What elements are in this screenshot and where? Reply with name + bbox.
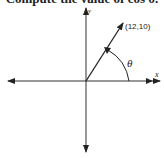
y-axis-label: y xyxy=(87,7,92,15)
coordinate-diagram: x y θ (12,10) xyxy=(0,0,164,158)
terminal-ray xyxy=(86,23,123,81)
angle-label: θ xyxy=(127,57,133,69)
x-axis-label: x xyxy=(154,70,159,79)
x-axis-arrow-icon xyxy=(146,78,153,84)
point-label: (12,10) xyxy=(125,22,151,31)
x-axis xyxy=(8,78,160,84)
angle-arc xyxy=(108,50,129,81)
